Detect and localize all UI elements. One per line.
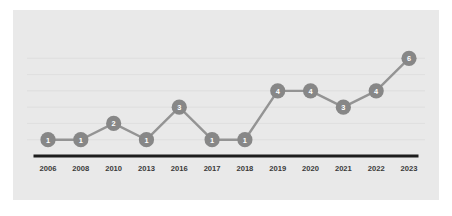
x-tick-label: 2016 — [171, 164, 188, 173]
x-tick-label: 2010 — [105, 164, 122, 173]
data-point-value-label: 1 — [243, 136, 247, 145]
x-tick-label: 2019 — [269, 164, 286, 173]
data-point-value-label: 3 — [177, 103, 181, 112]
line-chart: 112131144346 200620082010201320162017201… — [13, 10, 439, 200]
x-tick-label: 2006 — [40, 164, 57, 173]
x-tick-label: 2013 — [138, 164, 155, 173]
x-tick-label: 2008 — [72, 164, 89, 173]
data-point-value-label: 1 — [79, 136, 83, 145]
x-tick-label: 2020 — [302, 164, 319, 173]
gridlines — [27, 58, 425, 139]
x-tick-label: 2023 — [401, 164, 418, 173]
data-point-value-label: 6 — [407, 54, 411, 63]
x-tick-label: 2022 — [368, 164, 385, 173]
x-tick-label: 2021 — [335, 164, 353, 173]
series-line — [48, 58, 409, 139]
chart-card: 112131144346 200620082010201320162017201… — [13, 10, 439, 200]
data-point-value-label: 1 — [144, 136, 148, 145]
x-axis-tick-labels: 2006200820102013201620172018201920202021… — [40, 164, 418, 173]
x-tick-label: 2018 — [236, 164, 253, 173]
data-point-value-label: 1 — [46, 136, 50, 145]
x-tick-label: 2017 — [204, 164, 221, 173]
data-point-value-label: 1 — [210, 136, 214, 145]
data-point-value-label: 2 — [112, 119, 116, 128]
data-point-value-label: 3 — [341, 103, 345, 112]
